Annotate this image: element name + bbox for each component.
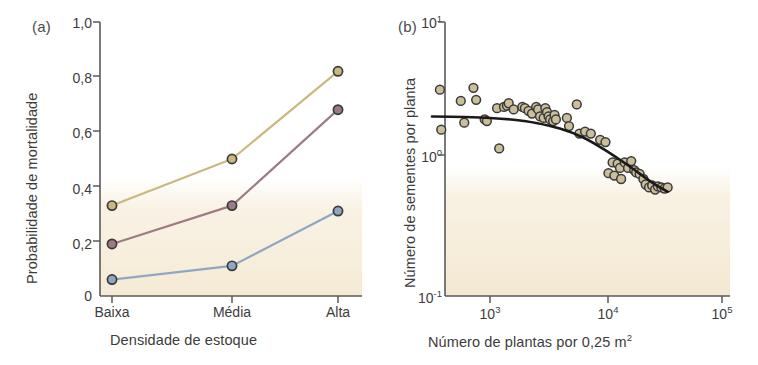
data-point-series-tan-alta[interactable] — [333, 67, 342, 76]
scatter-point[interactable] — [565, 122, 574, 131]
data-point-series-blue-baixa[interactable] — [107, 275, 116, 284]
scatter-point[interactable] — [552, 115, 561, 124]
scatter-point[interactable] — [456, 97, 465, 106]
scatter-point[interactable] — [436, 85, 445, 94]
figure-container: (a) Probabilidade de mortalidade Densida… — [0, 0, 758, 365]
scatter-point[interactable] — [437, 125, 446, 134]
panel-a: (a) Probabilidade de mortalidade Densida… — [0, 0, 380, 365]
scatter-point[interactable] — [617, 175, 626, 184]
scatter-point[interactable] — [509, 105, 518, 114]
scatter-point[interactable] — [469, 83, 478, 92]
data-point-series-mauve-média[interactable] — [227, 201, 236, 210]
data-point-series-mauve-baixa[interactable] — [107, 239, 116, 248]
scatter-point[interactable] — [472, 95, 481, 104]
data-point-series-blue-média[interactable] — [227, 261, 236, 270]
data-point-series-mauve-alta[interactable] — [333, 105, 342, 114]
panel-a-plot — [0, 0, 380, 365]
scatter-point[interactable] — [601, 138, 610, 147]
data-point-series-blue-alta[interactable] — [333, 206, 342, 215]
data-point-series-tan-média[interactable] — [227, 154, 236, 163]
scatter-point[interactable] — [460, 118, 469, 127]
panel-b-paper-tint — [445, 168, 730, 296]
scatter-point[interactable] — [572, 100, 581, 109]
panel-b-plot — [380, 0, 758, 365]
panel-a-x-ticks — [112, 296, 338, 303]
panel-b: (b) Número de sementes por planta Número… — [380, 0, 758, 365]
scatter-point[interactable] — [495, 144, 504, 153]
data-point-series-tan-baixa[interactable] — [107, 201, 116, 210]
scatter-point[interactable] — [586, 129, 595, 138]
panel-b-x-ticks — [490, 296, 722, 303]
panel-a-y-ticks — [93, 22, 100, 241]
